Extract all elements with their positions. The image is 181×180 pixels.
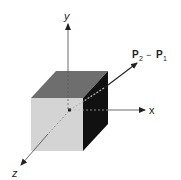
vector-p2-minus-p1 <box>104 63 137 88</box>
vector-label-sub2: 2 <box>139 55 143 62</box>
x-axis-label: x <box>149 104 155 116</box>
cube-front-face <box>31 98 83 151</box>
vector-label-sub1: 1 <box>163 55 167 62</box>
vector-label-minus: − <box>146 50 151 60</box>
origin-point <box>68 109 71 112</box>
y-axis-label: y <box>63 10 71 22</box>
vector-label-p1: P <box>156 49 163 60</box>
vector-label: P 2 − P 1 <box>132 49 167 62</box>
vector-label-p2: P <box>132 49 139 60</box>
z-axis-label: z <box>11 167 18 179</box>
cube-axes-diagram: y x z P 2 − P 1 <box>0 0 181 180</box>
